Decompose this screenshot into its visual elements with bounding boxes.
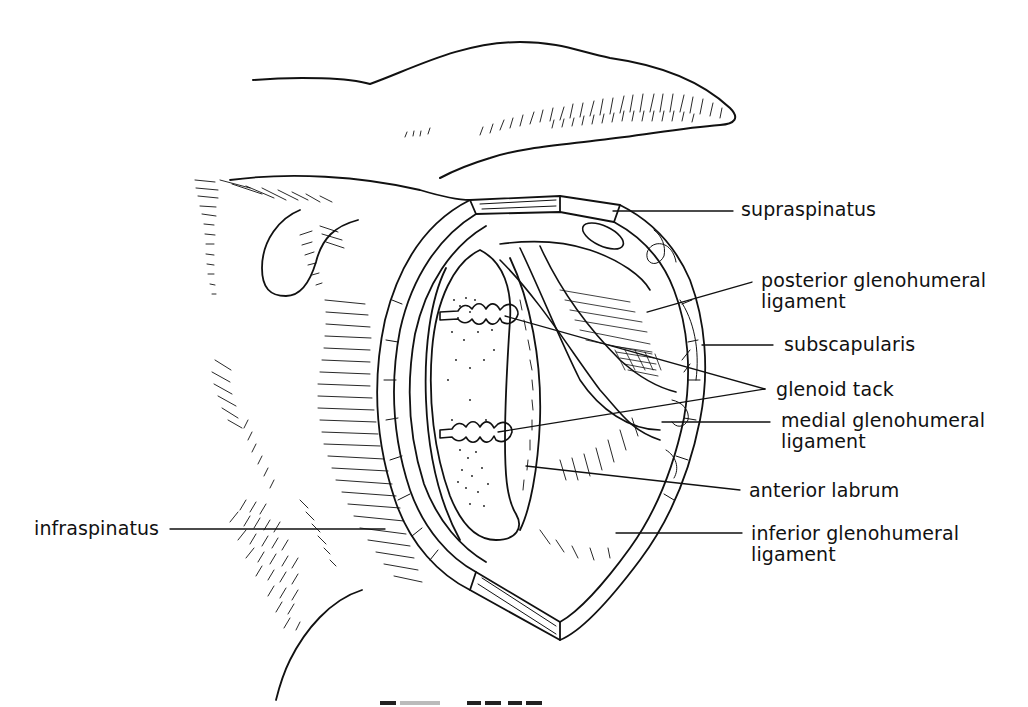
label-medial-glenohumeral-ligament: medial glenohumeral ligament bbox=[781, 410, 985, 452]
scapula-hatching bbox=[195, 180, 422, 630]
leader-anterior-labrum bbox=[526, 466, 740, 490]
acromion-outline bbox=[253, 42, 735, 178]
label-inferior-glenohumeral-ligament: inferior glenohumeral ligament bbox=[751, 523, 959, 565]
label-line-2: ligament bbox=[751, 544, 959, 565]
leader-glenoid-tack-a bbox=[505, 316, 765, 389]
label-supraspinatus: supraspinatus bbox=[741, 199, 876, 220]
label-anterior-labrum: anterior labrum bbox=[749, 480, 899, 501]
ligament-fibers bbox=[560, 290, 661, 376]
glenoid-fossa bbox=[426, 250, 541, 540]
label-line-2: ligament bbox=[781, 431, 985, 452]
label-glenoid-tack: glenoid tack bbox=[776, 379, 894, 400]
label-line-2: ligament bbox=[761, 291, 986, 312]
leader-posterior-ghl bbox=[647, 282, 752, 312]
label-subscapularis: subscapularis bbox=[784, 334, 915, 355]
leader-lines bbox=[170, 211, 773, 533]
rotator-cuff-ring-detail bbox=[384, 200, 700, 634]
label-infraspinatus: infraspinatus bbox=[34, 518, 159, 539]
glenoid-tack-upper bbox=[440, 304, 518, 325]
label-line-1: inferior glenohumeral bbox=[751, 523, 959, 544]
label-line-1: posterior glenohumeral bbox=[761, 270, 986, 291]
labrum-shading bbox=[520, 300, 638, 560]
scapula-outline bbox=[230, 176, 470, 700]
label-line-1: medial glenohumeral bbox=[781, 410, 985, 431]
figure-caption-clipped bbox=[360, 700, 640, 707]
label-posterior-glenohumeral-ligament: posterior glenohumeral ligament bbox=[761, 270, 986, 312]
glenoid-stippling bbox=[447, 297, 495, 507]
leader-glenoid-tack-b bbox=[498, 389, 765, 432]
